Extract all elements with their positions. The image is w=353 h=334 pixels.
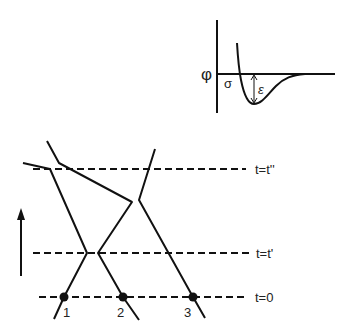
particle-1-label: 1 [63,305,70,320]
time-arrowhead-icon [17,208,25,220]
particle-3-label: 3 [184,305,191,320]
particle-1-dot [60,293,69,302]
phi-label: φ [201,65,212,84]
time-label-t0: t=0 [255,290,273,305]
time-label-t1: t=t' [256,246,273,261]
sigma-label: σ [224,76,232,91]
trajectory-particle-3 [139,149,205,318]
particle-2-dot [119,293,128,302]
time-label-t2: t=t'' [255,162,275,177]
particle-2-label: 2 [117,305,124,320]
trajectory-particle-1 [23,163,87,319]
particle-3-dot [189,293,198,302]
trajectory-diagram: 1 2 3 t=t'' t=t' t=0 [17,141,275,320]
epsilon-label: ε [258,82,264,97]
figure: φ σ ε 1 2 3 t=t'' t=t' t=0 [0,0,353,334]
potential-plot: φ σ ε [201,20,335,113]
